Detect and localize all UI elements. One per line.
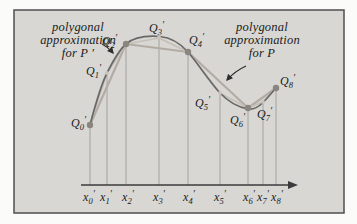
dot-q8 — [273, 85, 279, 91]
q8-label: Q8′ — [280, 72, 295, 90]
q2-label: Q2′ — [102, 32, 117, 50]
q1-label: Q1′ — [86, 62, 101, 80]
axis-label-x5: x5′ — [209, 188, 231, 206]
axis-label-x8: x8′ — [266, 188, 288, 206]
dot-q5 — [218, 91, 222, 95]
q0-label: Q0′ — [71, 114, 86, 132]
left-caption: polygonal approximation for P ′ — [22, 21, 134, 60]
dot-q1 — [105, 71, 109, 75]
dot-q4 — [185, 49, 191, 55]
axis-label-x2: x2′ — [117, 188, 139, 206]
dot-q0 — [87, 122, 93, 128]
axis-label-x3: x3′ — [148, 188, 170, 206]
axis-label-x4: x4′ — [178, 188, 200, 206]
dot-q7 — [261, 100, 265, 104]
q6-label: Q6′ — [230, 111, 245, 129]
dot-q6 — [245, 105, 251, 111]
axis-label-x1: x1′ — [95, 188, 117, 206]
right-caption: polygonal approximation for P — [204, 21, 320, 60]
right-caption-line3: for P — [204, 47, 320, 60]
q3-label: Q3′ — [149, 19, 164, 37]
q5-label: Q5′ — [195, 94, 210, 112]
q7-label: Q7′ — [257, 105, 272, 123]
q4-label: Q4′ — [189, 31, 204, 49]
left-caption-line3: for P ′ — [22, 47, 134, 60]
figure-canvas: polygonal approximation for P ′ polygona… — [0, 0, 357, 224]
